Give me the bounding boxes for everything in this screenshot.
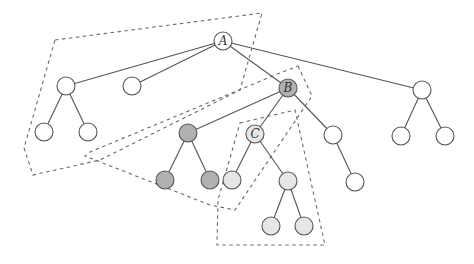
node-G1 (179, 124, 197, 142)
node-G1b (201, 171, 219, 189)
edge-B-G1 (188, 88, 288, 133)
node-circle (279, 172, 297, 190)
node-L1b (79, 123, 97, 141)
edge-B-B3 (288, 88, 333, 135)
node-label: B (283, 81, 293, 95)
node-Cba (262, 217, 280, 235)
tree-edges (44, 41, 445, 226)
node-C: C (246, 125, 264, 143)
dashed-regions (24, 13, 325, 245)
edge-A-R1 (223, 41, 422, 90)
node-Ca (223, 171, 241, 189)
tree-diagram: ABC (0, 0, 474, 264)
node-circle (295, 217, 313, 235)
region-B (85, 66, 312, 210)
node-circle (179, 124, 197, 142)
node-A: A (214, 32, 232, 50)
node-B: B (279, 79, 297, 97)
node-L1a (35, 123, 53, 141)
node-Cb (279, 172, 297, 190)
node-circle (201, 171, 219, 189)
node-Cbb (295, 217, 313, 235)
node-B3a (346, 173, 364, 191)
node-R1a (392, 127, 410, 145)
node-circle (413, 81, 431, 99)
node-R1 (413, 81, 431, 99)
node-circle (57, 77, 75, 95)
node-G1a (156, 171, 174, 189)
node-circle (346, 173, 364, 191)
node-circle (436, 127, 454, 145)
node-circle (35, 123, 53, 141)
node-L1 (57, 77, 75, 95)
node-circle (392, 127, 410, 145)
node-circle (79, 123, 97, 141)
node-circle (156, 171, 174, 189)
node-B3 (324, 126, 342, 144)
node-circle (262, 217, 280, 235)
node-label: C (250, 127, 259, 141)
node-label: A (218, 34, 228, 48)
node-circle (223, 171, 241, 189)
node-R1b (436, 127, 454, 145)
node-L2 (123, 77, 141, 95)
tree-nodes: ABC (35, 32, 454, 235)
node-circle (324, 126, 342, 144)
node-circle (123, 77, 141, 95)
edge-A-B (223, 41, 288, 88)
